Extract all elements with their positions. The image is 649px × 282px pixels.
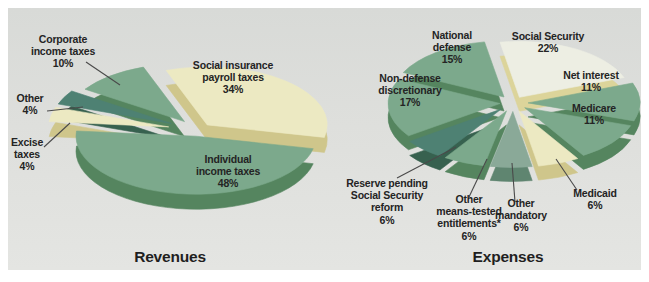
- expenses-title: Expenses: [473, 248, 544, 266]
- budget-pies-figure: Corporate income taxes 10% Other 4% Exci…: [0, 0, 649, 282]
- revenues-title: Revenues: [134, 248, 206, 266]
- pies-canvas: [0, 0, 649, 282]
- revenues-slice-social-insurance-payroll-taxes: [166, 67, 327, 137]
- pie-slices-layer: [49, 41, 640, 209]
